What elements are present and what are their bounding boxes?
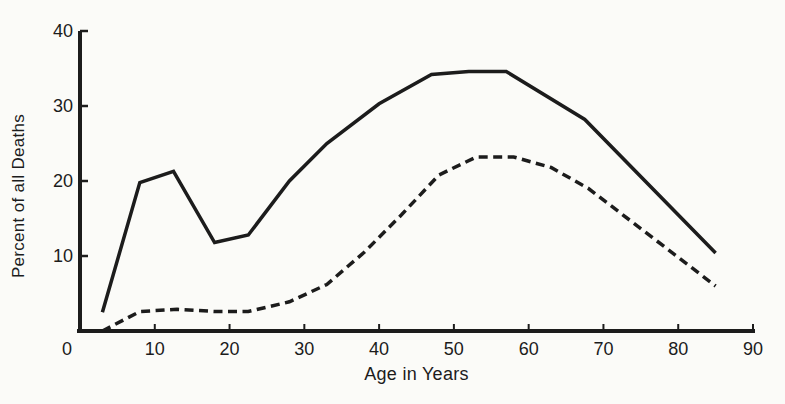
death-percent-by-age-chart: 010203040506070809010203040 Age in Years… [0,0,785,404]
x-tick-label: 60 [519,339,539,359]
line-chart-canvas: 010203040506070809010203040 [0,0,785,404]
x-tick-label: 20 [220,339,240,359]
x-axis-title: Age in Years [80,364,753,385]
y-tick-label: 40 [53,21,73,41]
x-tick-label: 90 [743,339,763,359]
y-tick-label: 10 [53,246,73,266]
x-tick-label: 0 [62,339,72,359]
series-dashed-line [102,157,715,331]
y-tick-label: 30 [53,96,73,116]
series-solid-line [102,72,715,313]
y-axis-title: Percent of all Deaths [9,76,31,316]
x-tick-label: 80 [668,339,688,359]
x-tick-label: 40 [369,339,389,359]
x-tick-label: 10 [145,339,165,359]
y-tick-label: 20 [53,171,73,191]
x-tick-label: 70 [593,339,613,359]
x-tick-label: 50 [444,339,464,359]
x-tick-label: 30 [294,339,314,359]
